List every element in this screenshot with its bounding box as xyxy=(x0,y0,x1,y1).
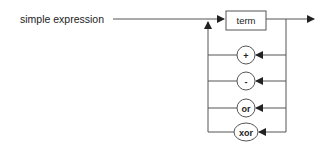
plus-label: + xyxy=(243,51,248,61)
syntax-diagram: simple expression term + - or xor xyxy=(0,0,333,150)
rule-name-label: simple expression xyxy=(20,13,104,25)
operator-plus: + xyxy=(208,46,286,64)
operator-xor: xor xyxy=(208,123,286,141)
xor-label: xor xyxy=(239,128,254,138)
operator-minus: - xyxy=(208,72,286,90)
term-label: term xyxy=(237,15,256,26)
or-label: or xyxy=(242,104,251,114)
term-box: term xyxy=(226,11,266,30)
operator-or: or xyxy=(208,99,286,117)
minus-label: - xyxy=(245,77,248,87)
